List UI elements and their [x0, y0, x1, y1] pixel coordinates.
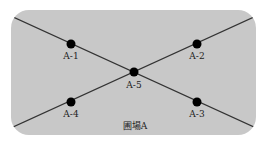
label-A-2: A-2	[189, 51, 204, 61]
point-A-5	[130, 68, 139, 77]
point-A-2	[193, 40, 202, 49]
point-A-1	[67, 40, 76, 49]
label-A-1: A-1	[63, 51, 78, 61]
label-A-4: A-4	[63, 109, 78, 119]
point-A-4	[67, 98, 76, 107]
point-A-3	[193, 98, 202, 107]
label-A-5: A-5	[126, 80, 141, 90]
field-title: 圃場A	[123, 121, 148, 131]
label-A-3: A-3	[189, 109, 204, 119]
